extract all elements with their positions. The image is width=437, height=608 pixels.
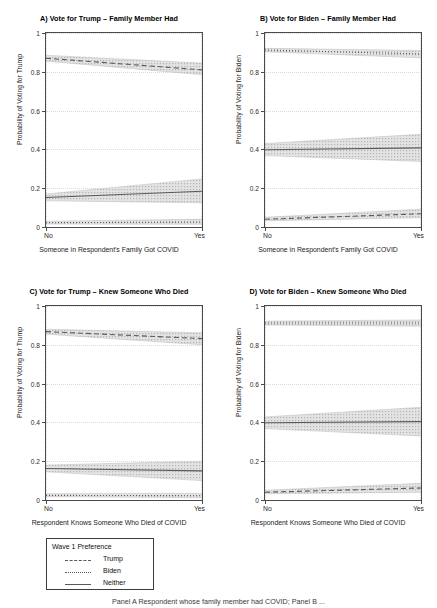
- x-tick-mark: [202, 501, 203, 504]
- panel-a-series-layer: [46, 33, 202, 227]
- y-tick-label: 0: [237, 224, 259, 231]
- panel-b-xaxis: NoYes: [264, 228, 422, 242]
- legend-title: Wave 1 Preference: [52, 543, 112, 550]
- y-tick-label: 0: [18, 497, 40, 504]
- panel-d-ylabel: Probability of Voting for Biden: [235, 298, 242, 448]
- x-tick-mark: [46, 501, 47, 504]
- panel-b: B) Vote for Biden – Family Member Had 00…: [219, 0, 437, 278]
- panel-a-xaxis: NoYes: [45, 228, 203, 242]
- legend-key-dotted-icon: [65, 572, 91, 573]
- figure-multipanel: A) Vote for Trump – Family Member Had 00…: [0, 0, 437, 608]
- x-tick-label: Yes: [194, 232, 205, 239]
- panel-b-title: B) Vote for Biden – Family Member Had: [219, 14, 437, 23]
- panel-b-ylabel: Probability of Voting for Biden: [235, 25, 242, 175]
- panel-d-xlabel: Respondent Knows Someone Who Died of COV…: [219, 519, 437, 526]
- panel-c-series-layer: [46, 306, 202, 500]
- y-tick-label: 0: [18, 224, 40, 231]
- panel-b-series-layer: [265, 33, 421, 227]
- legend-key-solid-icon: [65, 584, 91, 585]
- legend-label: Neither: [103, 579, 126, 586]
- x-tick-mark: [202, 228, 203, 231]
- panel-d: D) Vote for Biden – Knew Someone Who Die…: [219, 273, 437, 551]
- y-tick-label: 0.2: [237, 458, 259, 465]
- ci-band-neither: [46, 179, 202, 203]
- legend-label: Trump: [103, 555, 123, 562]
- x-tick-mark: [421, 501, 422, 504]
- panel-d-plot-area: [264, 305, 422, 501]
- ci-band-trump: [46, 55, 202, 74]
- panel-a-title: A) Vote for Trump – Family Member Had: [0, 14, 218, 23]
- panel-d-title: D) Vote for Biden – Knew Someone Who Die…: [219, 287, 437, 296]
- legend-label: Biden: [103, 567, 121, 574]
- x-tick-label: No: [44, 505, 53, 512]
- x-tick-label: No: [263, 232, 272, 239]
- panel-a-xlabel: Someone in Respondent's Family Got COVID: [0, 246, 218, 253]
- panel-a: A) Vote for Trump – Family Member Had 00…: [0, 0, 218, 278]
- x-tick-mark: [265, 228, 266, 231]
- legend-item-neither[interactable]: Neither: [47, 579, 155, 590]
- legend-item-trump[interactable]: Trump: [47, 555, 155, 566]
- panel-c-plot-area: [45, 305, 203, 501]
- x-tick-label: No: [263, 505, 272, 512]
- panel-b-xlabel: Someone in Respondent's Family Got COVID: [219, 246, 437, 253]
- figure-caption: Panel A Respondent whose family member h…: [0, 597, 437, 606]
- x-tick-mark: [421, 228, 422, 231]
- panel-a-plot-area: [45, 32, 203, 228]
- panel-d-xaxis: NoYes: [264, 501, 422, 515]
- legend: Wave 1 Preference TrumpBidenNeither: [46, 538, 154, 590]
- x-tick-mark: [46, 228, 47, 231]
- y-tick-label: 0.2: [18, 458, 40, 465]
- y-tick-label: 0.2: [18, 185, 40, 192]
- panel-c-title: C) Vote for Trump – Knew Someone Who Die…: [0, 287, 218, 296]
- panel-a-yaxis: 00.20.40.60.81: [20, 32, 45, 228]
- legend-item-biden[interactable]: Biden: [47, 567, 155, 578]
- legend-key-dashed-icon: [65, 560, 91, 561]
- panel-c-yaxis: 00.20.40.60.81: [20, 305, 45, 501]
- x-tick-label: Yes: [413, 232, 424, 239]
- panel-b-yaxis: 00.20.40.60.81: [239, 32, 264, 228]
- x-tick-label: Yes: [194, 505, 205, 512]
- panel-c-xlabel: Respondent Knows Someone Who Died of COV…: [0, 519, 218, 526]
- panel-c-ylabel: Probability of Voting for Trump: [16, 298, 23, 448]
- panel-a-ylabel: Probability of Voting for Trump: [16, 25, 23, 175]
- y-tick-label: 0.2: [237, 185, 259, 192]
- panel-b-plot-area: [264, 32, 422, 228]
- panel-d-series-layer: [265, 306, 421, 500]
- x-tick-label: Yes: [413, 505, 424, 512]
- panel-d-yaxis: 00.20.40.60.81: [239, 305, 264, 501]
- x-tick-label: No: [44, 232, 53, 239]
- panel-c: C) Vote for Trump – Knew Someone Who Die…: [0, 273, 218, 551]
- y-tick-label: 0: [237, 497, 259, 504]
- panel-c-xaxis: NoYes: [45, 501, 203, 515]
- x-tick-mark: [265, 501, 266, 504]
